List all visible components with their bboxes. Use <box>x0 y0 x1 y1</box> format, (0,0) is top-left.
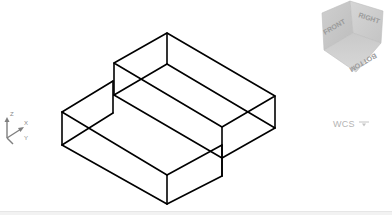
viewcube[interactable]: FRONT RIGHT BOTTOM <box>318 0 392 78</box>
ucs-x-label: X <box>24 120 28 126</box>
wcs-menu[interactable]: WCS <box>333 117 369 131</box>
ucs-y-label: Y <box>24 135 28 141</box>
ucs-icon: Z X Y <box>2 108 32 148</box>
wcs-label: WCS <box>333 119 355 129</box>
status-bar <box>0 211 392 215</box>
drawing-viewport[interactable]: FRONT RIGHT BOTTOM Z X Y WCS <box>0 0 392 211</box>
ucs-z-label: Z <box>10 111 14 117</box>
chevron-down-icon <box>359 120 369 128</box>
